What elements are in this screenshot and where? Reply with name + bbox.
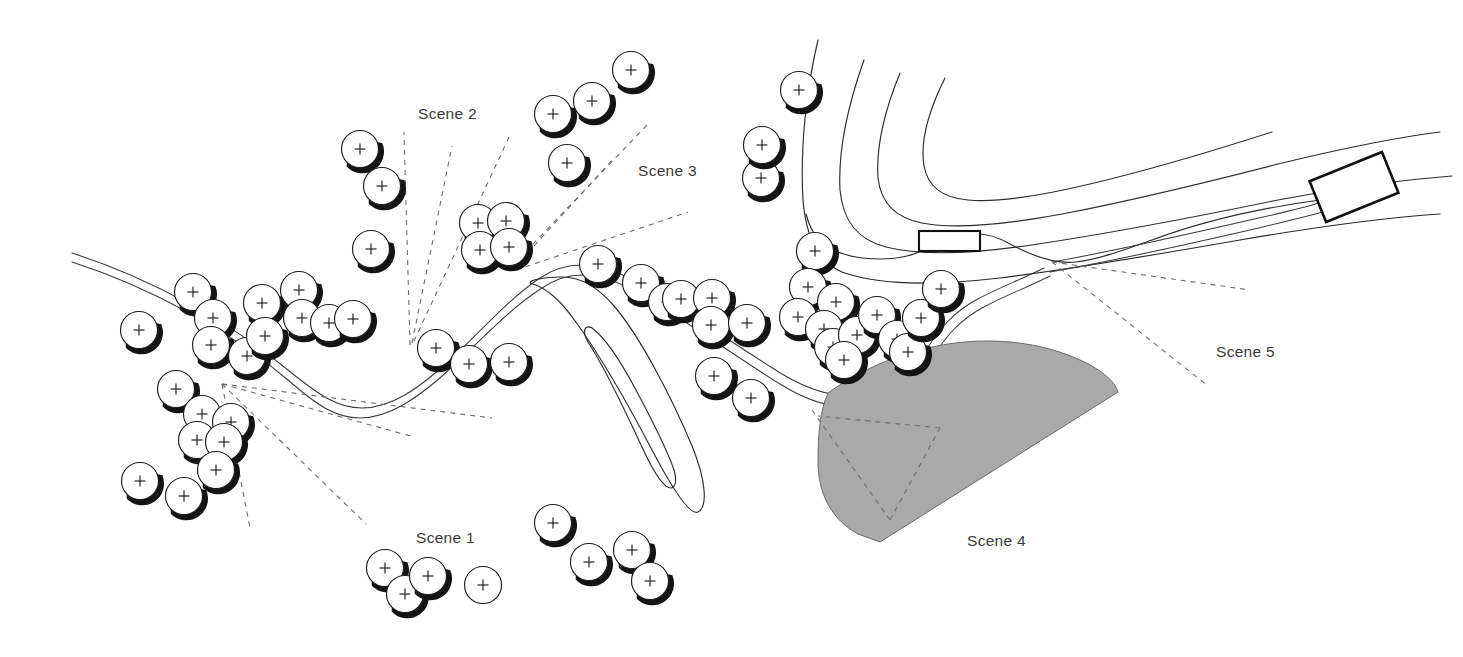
tree-symbol xyxy=(632,563,675,606)
scene-2-ray-2 xyxy=(412,146,452,343)
label-scene-4: Scene 4 xyxy=(967,532,1026,549)
scene-1-ray-1 xyxy=(222,384,492,418)
label-scene-3: Scene 3 xyxy=(638,162,697,179)
tree-symbol xyxy=(580,246,623,289)
contour-valley-inner xyxy=(585,327,676,488)
tree-symbol xyxy=(342,131,385,174)
tree-symbol xyxy=(535,505,578,548)
tree-symbol xyxy=(353,231,396,274)
tree-symbol-layer xyxy=(121,52,966,619)
tree-symbol xyxy=(364,168,407,211)
scene-map-diagram: Scene 1Scene 2Scene 3Scene 4Scene 5 xyxy=(0,0,1463,657)
tree-symbol xyxy=(335,301,378,344)
tree-symbol xyxy=(923,271,966,314)
contour-ne-1 xyxy=(802,40,1440,283)
tree-symbol xyxy=(781,72,824,115)
east-road-edge-north xyxy=(1052,202,1322,262)
tree-symbol xyxy=(491,344,534,387)
tree-symbol xyxy=(729,305,772,348)
building-mid-rect xyxy=(919,231,980,251)
tree-symbol xyxy=(465,567,502,604)
east-road-edge-south xyxy=(1050,211,1326,272)
tree-symbol xyxy=(549,145,592,188)
contour-ne-4 xyxy=(923,78,1272,201)
scene-1-view-cone xyxy=(222,384,492,528)
label-scene-5: Scene 5 xyxy=(1216,343,1275,360)
label-scene-1: Scene 1 xyxy=(416,529,475,546)
tree-symbol xyxy=(122,463,165,506)
scene-2-ray-vertical xyxy=(404,132,410,345)
tree-symbol xyxy=(121,312,164,355)
tree-symbol xyxy=(247,318,290,361)
map-canvas: Scene 1Scene 2Scene 3Scene 4Scene 5 xyxy=(0,0,1463,657)
contour-group-northeast xyxy=(802,40,1452,283)
tree-symbol xyxy=(574,83,617,126)
label-scene-2: Scene 2 xyxy=(418,105,477,122)
tree-symbol xyxy=(744,127,787,170)
tree-symbol xyxy=(613,52,656,95)
tree-symbol xyxy=(571,544,614,587)
tree-symbol xyxy=(733,380,776,423)
tree-symbol xyxy=(451,346,494,389)
building-northeast-rect xyxy=(1310,152,1399,222)
tree-symbol xyxy=(696,358,739,401)
tree-symbol xyxy=(166,478,209,521)
tree-symbol xyxy=(535,96,578,139)
tree-symbol xyxy=(410,558,453,601)
